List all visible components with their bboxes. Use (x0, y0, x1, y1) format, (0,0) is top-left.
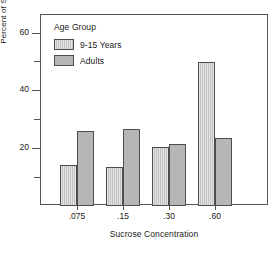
legend: Age Group 9-15 Years Adults (54, 22, 122, 71)
y-tick-label-20: 20 (20, 142, 29, 152)
x-tick-60 (215, 205, 216, 210)
y-axis-title: Percent of Subjects (0, 0, 8, 78)
bar-young-30 (152, 147, 169, 206)
y-tick-label-60: 60 (20, 27, 29, 37)
bar-adult-075 (77, 131, 94, 206)
y-tick-40: 40 (32, 90, 40, 91)
bar-adult-60 (215, 138, 232, 206)
bar-chart: Percent of Subjects 60 40 20 .075 .15 .3… (0, 0, 278, 253)
x-tick-075 (77, 205, 78, 210)
bar-young-15 (106, 167, 123, 206)
legend-swatch-adult (54, 55, 74, 66)
legend-item-adult: Adults (54, 55, 122, 66)
y-tick-label-40: 40 (20, 84, 29, 94)
legend-item-young: 9-15 Years (54, 39, 122, 50)
x-tick-label-15: .15 (117, 211, 129, 221)
y-tick-60: 60 (32, 33, 40, 34)
bar-young-60 (198, 62, 215, 206)
x-tick-30 (169, 205, 170, 210)
legend-swatch-young (54, 39, 74, 50)
legend-title: Age Group (54, 22, 122, 32)
bar-adult-15 (123, 129, 140, 206)
legend-label-adult: Adults (80, 56, 104, 66)
x-tick-label-30: .30 (163, 211, 175, 221)
x-tick-label-60: .60 (209, 211, 221, 221)
x-axis-title: Sucrose Concentration (40, 229, 268, 239)
legend-label-young: 9-15 Years (80, 40, 122, 50)
x-tick-label-075: .075 (69, 211, 86, 221)
bar-adult-30 (169, 144, 186, 206)
y-tick-20: 20 (32, 148, 40, 149)
x-tick-15 (123, 205, 124, 210)
bar-young-075 (60, 165, 77, 206)
